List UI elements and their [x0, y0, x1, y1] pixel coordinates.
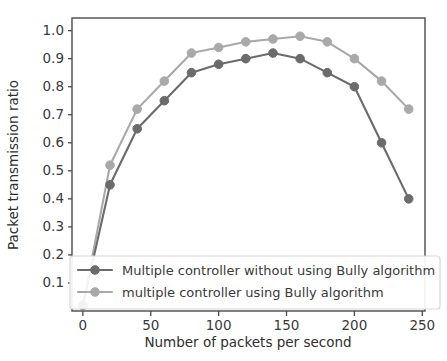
figure-canvas: 0.10.20.30.40.50.60.70.80.91.0 050100150…	[0, 0, 447, 361]
data-point	[377, 138, 386, 147]
data-point	[214, 43, 223, 52]
x-axis-ticks	[83, 311, 422, 316]
data-point	[323, 68, 332, 77]
legend-item[interactable]: Multiple controller without using Bully …	[78, 263, 435, 278]
data-point	[241, 54, 250, 63]
line-chart: 0.10.20.30.40.50.60.70.80.91.0 050100150…	[0, 0, 447, 361]
x-axis-title: Number of packets per second	[144, 334, 351, 350]
x-axis-tick-labels: 050100150200250	[79, 317, 436, 333]
y-tick-label: 1.0	[43, 22, 64, 38]
legend-item[interactable]: multiple controller using Bully algorith…	[78, 285, 384, 300]
data-point	[269, 35, 278, 44]
data-point	[296, 54, 305, 63]
y-tick-label: 0.1	[43, 274, 64, 290]
chart-legend: Multiple controller without using Bully …	[70, 256, 440, 309]
x-tick-label: 250	[409, 317, 435, 333]
y-tick-label: 0.7	[43, 106, 64, 122]
data-point	[160, 77, 169, 86]
x-tick-label: 200	[342, 317, 368, 333]
x-tick-label: 150	[274, 317, 300, 333]
legend-marker	[91, 288, 100, 297]
data-point	[214, 60, 223, 69]
data-point	[269, 49, 278, 58]
x-tick-label: 50	[142, 317, 159, 333]
data-point	[133, 105, 142, 114]
data-point	[133, 124, 142, 133]
data-point	[350, 82, 359, 91]
x-tick-label: 100	[206, 317, 232, 333]
data-point	[404, 105, 413, 114]
y-tick-label: 0.4	[43, 190, 64, 206]
legend-label: Multiple controller without using Bully …	[122, 263, 435, 278]
data-point	[296, 32, 305, 41]
data-point	[323, 38, 332, 47]
data-point	[106, 161, 115, 170]
data-point	[187, 68, 196, 77]
data-point	[377, 77, 386, 86]
data-point	[350, 54, 359, 63]
data-point	[404, 195, 413, 204]
x-tick-label: 0	[79, 317, 88, 333]
y-tick-label: 0.5	[43, 162, 64, 178]
y-axis-title: Packet transmission ratio	[5, 80, 21, 250]
y-tick-label: 0.9	[43, 50, 64, 66]
data-point	[160, 96, 169, 105]
y-tick-label: 0.8	[43, 78, 64, 94]
data-point	[187, 49, 196, 58]
data-point	[241, 38, 250, 47]
y-tick-label: 0.2	[43, 246, 64, 262]
legend-marker	[91, 266, 100, 275]
data-point	[106, 181, 115, 190]
y-tick-label: 0.3	[43, 218, 64, 234]
y-tick-label: 0.6	[43, 134, 64, 150]
y-axis-tick-labels: 0.10.20.30.40.50.60.70.80.91.0	[43, 22, 64, 290]
legend-label: multiple controller using Bully algorith…	[122, 285, 384, 300]
